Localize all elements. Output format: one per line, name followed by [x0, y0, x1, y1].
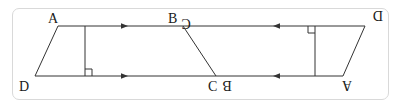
parallel-arrow-icon: [273, 73, 280, 78]
label-left-B: B: [168, 11, 177, 26]
shared-side-BC: [183, 26, 216, 76]
left-side-AD: [35, 26, 58, 76]
parallel-arrow-icon: [121, 73, 128, 78]
label-left-C: C: [208, 79, 217, 94]
label-left-D: D: [19, 79, 29, 94]
parallel-arrow-icon: [273, 23, 280, 28]
right-angle-icon: [85, 69, 92, 76]
parallel-arrow-icon: [121, 23, 128, 28]
trapezoid-diagram: A D B C C B D A: [0, 0, 402, 104]
right-side-AD: [343, 26, 365, 76]
label-right-A: A: [341, 78, 352, 93]
label-left-A: A: [48, 11, 59, 26]
label-right-B: B: [222, 78, 231, 93]
label-right-C: C: [181, 16, 190, 31]
label-right-D: D: [373, 8, 383, 23]
right-angle-icon: [308, 26, 315, 33]
